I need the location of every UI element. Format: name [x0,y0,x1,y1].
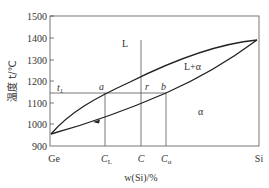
y-tick-1400: 1400 [27,33,47,44]
y-tick-1500: 1500 [27,11,47,22]
x-label-si: Si [255,153,264,164]
y-tick-1200: 1200 [27,76,47,87]
y-tick-1100: 1100 [27,98,47,109]
x-label-c: C [138,153,145,164]
x-axis-title: w(Si)/% [124,172,157,184]
y-tick-1300: 1300 [27,55,47,66]
point-r-label: r [145,81,149,92]
point-b-label: b [161,81,166,92]
y-ticks [50,16,54,124]
y-tick-900: 900 [32,141,47,152]
y-axis-title: 温度 t/℃ [6,60,18,102]
x-label-ca: Cα [161,153,172,166]
liquidus-curve [51,40,257,134]
region-l-alpha-label: L+α [184,61,202,72]
region-l-label: L [122,38,128,49]
x-label-cl: CL [101,153,112,166]
y-tick-1000: 1000 [27,119,47,130]
point-a-label: a [99,81,104,92]
plot-frame [50,16,259,146]
solidus-curve [51,40,257,134]
x-label-ge: Ge [48,153,60,164]
region-alpha-label: α [198,106,204,117]
phase-diagram: 1500 1400 1300 1200 1100 1000 900 温度 t/℃… [0,0,269,188]
